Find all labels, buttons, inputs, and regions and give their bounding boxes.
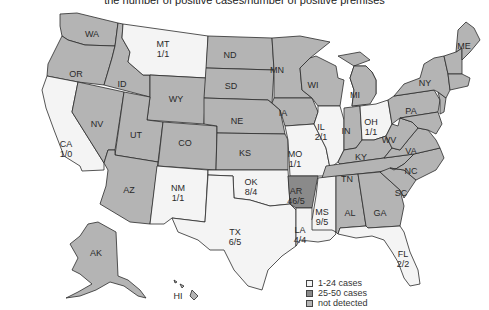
legend-label-high: 25-50 cases <box>318 288 367 298</box>
legend-item-high: 25-50 cases <box>306 288 368 298</box>
legend: 1-24 cases 25-50 cases not detected <box>306 278 368 308</box>
label-PA: PA <box>405 106 416 116</box>
label-WI: WI <box>308 80 319 90</box>
label-CA-value: 1/0 <box>60 149 73 159</box>
label-KY: KY <box>355 152 367 162</box>
state-MA-CT-RI <box>448 74 470 90</box>
label-OH-value: 1/1 <box>365 127 378 137</box>
label-NV: NV <box>91 119 104 129</box>
label-NC: NC <box>405 166 418 176</box>
legend-item-low: 1-24 cases <box>306 278 368 288</box>
label-AL: AL <box>344 208 355 218</box>
label-KS: KS <box>239 148 251 158</box>
label-HI: HI <box>174 291 183 301</box>
label-SC: SC <box>395 188 408 198</box>
label-CA: CA <box>60 139 73 149</box>
label-AR: AR <box>290 186 303 196</box>
label-ND: ND <box>224 50 237 60</box>
label-WA: WA <box>85 29 99 39</box>
label-MO-value: 1/1 <box>289 159 302 169</box>
label-FL-value: 2/2 <box>397 259 410 269</box>
label-OR: OR <box>69 69 83 79</box>
label-ID: ID <box>118 79 128 89</box>
label-MT: MT <box>157 39 170 49</box>
legend-swatch-low <box>306 280 313 287</box>
label-LA: LA <box>294 225 305 235</box>
label-UT: UT <box>130 130 142 140</box>
label-VA: VA <box>405 146 416 156</box>
label-IL: IL <box>317 122 325 132</box>
label-NE: NE <box>231 116 244 126</box>
label-NM-value: 1/1 <box>172 193 185 203</box>
label-WV: WV <box>382 135 397 145</box>
legend-label-none: not detected <box>318 298 368 308</box>
state-MI-lower <box>350 66 376 106</box>
label-NY: NY <box>419 78 432 88</box>
label-IL-value: 2/1 <box>315 132 328 142</box>
label-MI: MI <box>350 90 360 100</box>
label-OH: OH <box>364 117 378 127</box>
label-AR-value: 46/5 <box>287 196 305 206</box>
state-KS <box>216 133 288 170</box>
label-MS: MS <box>315 207 329 217</box>
label-OK-value: 8/4 <box>245 187 258 197</box>
label-ME: ME <box>457 41 471 51</box>
label-MS-value: 9/5 <box>316 217 329 227</box>
label-TX: TX <box>229 227 241 237</box>
label-MO: MO <box>288 149 303 159</box>
legend-item-none: not detected <box>306 298 368 308</box>
label-WY: WY <box>169 94 184 104</box>
label-CO: CO <box>178 138 192 148</box>
state-ND <box>206 36 274 70</box>
label-AZ: AZ <box>123 185 135 195</box>
label-TX-value: 6/5 <box>229 237 242 247</box>
label-OK: OK <box>244 177 257 187</box>
label-TN: TN <box>341 174 353 184</box>
us-choropleth-map: WA OR CA 1/0 ID NV MT 1/1 WY UT AZ CO NM… <box>0 0 489 310</box>
label-IA: IA <box>279 108 288 118</box>
label-NM: NM <box>171 183 185 193</box>
legend-swatch-none <box>306 300 313 307</box>
label-MN: MN <box>270 65 284 75</box>
state-AK <box>66 222 146 298</box>
label-SD: SD <box>225 81 238 91</box>
legend-label-low: 1-24 cases <box>318 278 362 288</box>
state-SD <box>204 68 274 103</box>
label-AK: AK <box>90 248 102 258</box>
legend-swatch-high <box>306 290 313 297</box>
state-NY <box>394 56 450 98</box>
label-LA-value: 4/4 <box>294 235 307 245</box>
label-MT-value: 1/1 <box>157 49 170 59</box>
label-IN: IN <box>342 126 351 136</box>
label-GA: GA <box>373 208 386 218</box>
label-FL: FL <box>398 249 409 259</box>
